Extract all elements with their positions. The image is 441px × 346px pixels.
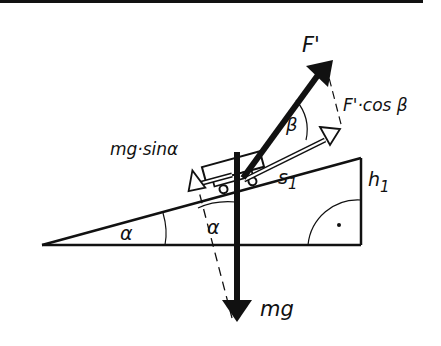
label-force-component: F'·cos β — [343, 95, 408, 115]
inclined-plane-diagram: F' F'·cos β β mg·sinα s1 h1 α α mg — [0, 0, 441, 346]
label-downhill-component: mg·sinα — [110, 139, 178, 159]
normal-dashed-line — [196, 180, 232, 318]
label-alpha-weight: α — [207, 216, 220, 238]
label-height: h1 — [368, 168, 390, 196]
right-angle-dot — [337, 223, 341, 227]
angle-arc-alpha-weight — [198, 202, 236, 208]
label-weight: mg — [260, 297, 294, 321]
label-beta: β — [285, 114, 298, 135]
right-angle-arc — [308, 200, 361, 245]
label-applied-force: F' — [302, 33, 320, 57]
label-slope-length: s1 — [278, 166, 297, 193]
label-alpha-base: α — [120, 222, 133, 244]
angle-arc-alpha-base — [163, 213, 166, 245]
